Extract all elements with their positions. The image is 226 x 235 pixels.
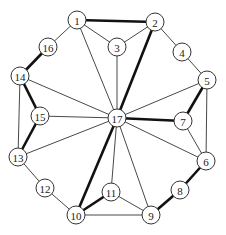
node-14: 14 — [11, 67, 29, 85]
edge-17-9 — [117, 118, 151, 215]
edge-14-13 — [18, 76, 20, 157]
node-label: 8 — [177, 185, 183, 197]
node-12: 12 — [36, 179, 54, 197]
node-7: 7 — [174, 112, 192, 130]
nodes-layer: 1234516141517713612811109 — [9, 11, 216, 224]
node-2: 2 — [146, 13, 164, 31]
node-label: 4 — [179, 47, 185, 59]
edge-1-2 — [77, 20, 155, 22]
node-13: 13 — [9, 148, 27, 166]
node-9: 9 — [142, 206, 160, 224]
node-label: 9 — [148, 210, 154, 222]
edge-17-7 — [117, 118, 183, 121]
node-15: 15 — [31, 107, 49, 125]
edge-17-6 — [117, 118, 206, 161]
node-1: 1 — [68, 11, 86, 29]
node-label: 15 — [35, 111, 47, 123]
node-10: 10 — [67, 206, 85, 224]
edge-2-17 — [117, 22, 155, 118]
node-label: 7 — [180, 116, 186, 128]
node-label: 14 — [15, 71, 27, 83]
node-17: 17 — [108, 109, 126, 127]
node-11: 11 — [102, 183, 120, 201]
node-label: 13 — [13, 152, 25, 164]
node-label: 5 — [204, 75, 210, 87]
edge-15-17 — [40, 116, 117, 118]
node-3: 3 — [108, 38, 126, 56]
node-16: 16 — [39, 38, 57, 56]
node-label: 12 — [40, 183, 51, 195]
node-label: 1 — [74, 15, 80, 27]
node-4: 4 — [173, 43, 191, 61]
node-label: 3 — [114, 42, 120, 54]
node-label: 10 — [71, 210, 83, 222]
node-8: 8 — [171, 181, 189, 199]
node-label: 2 — [152, 17, 158, 29]
node-5: 5 — [198, 71, 216, 89]
node-6: 6 — [197, 152, 215, 170]
node-label: 6 — [203, 156, 209, 168]
node-label: 17 — [112, 113, 124, 125]
graph-diagram: 1234516141517713612811109 — [0, 0, 226, 235]
node-label: 11 — [106, 187, 117, 199]
edge-5-6 — [206, 80, 207, 161]
node-label: 16 — [43, 42, 55, 54]
